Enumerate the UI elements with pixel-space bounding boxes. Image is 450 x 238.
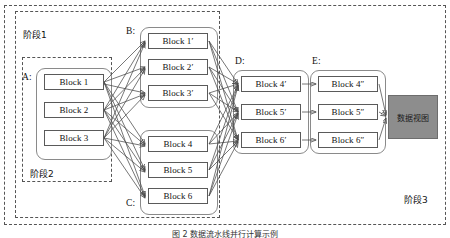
diagram-canvas: 阶段1 阶段2 阶段3 A: B: C: D: E: [0,0,450,238]
block-d1[interactable]: Block 4′ [241,76,301,92]
block-e2[interactable]: Block 5″ [318,104,378,120]
block-c3[interactable]: Block 6 [148,188,208,204]
block-a1[interactable]: Block 1 [44,74,104,90]
data-view-node[interactable]: 数据视图 [388,95,438,139]
group-e-label: E: [312,56,321,66]
stage1-label: 阶段1 [23,28,47,41]
group-d-label: D: [235,56,245,66]
figure-caption: 图 2 数据流水线并行计算示例 [0,228,450,238]
block-b3[interactable]: Block 3′ [148,85,208,101]
block-e3[interactable]: Block 6″ [318,132,378,148]
block-c2[interactable]: Block 5 [148,162,208,178]
stage2-label: 阶段2 [30,167,54,180]
group-b-label: B: [126,26,135,36]
block-a3[interactable]: Block 3 [44,130,104,146]
block-e1[interactable]: Block 4″ [318,76,378,92]
stage3-label: 阶段3 [404,193,428,206]
group-c-label: C: [126,198,135,208]
block-b2[interactable]: Block 2′ [148,59,208,75]
block-d3[interactable]: Block 6′ [241,132,301,148]
block-c1[interactable]: Block 4 [148,136,208,152]
block-b1[interactable]: Block 1′ [148,33,208,49]
block-d2[interactable]: Block 5′ [241,104,301,120]
block-a2[interactable]: Block 2 [44,102,104,118]
group-a-label: A: [22,72,32,82]
